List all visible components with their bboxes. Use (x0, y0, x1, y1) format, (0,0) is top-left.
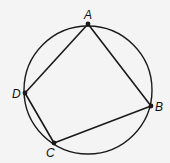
point-d (23, 91, 28, 96)
label-d: D (12, 87, 21, 101)
label-a: A (83, 8, 92, 22)
quadrilateral-abcd (25, 24, 151, 143)
geometry-diagram: ABCD (0, 0, 170, 163)
point-c (52, 141, 57, 146)
label-c: C (46, 146, 55, 160)
vertex-labels: ABCD (12, 8, 163, 160)
circumscribed-circle (24, 26, 152, 154)
point-a (86, 22, 91, 27)
label-b: B (155, 100, 163, 114)
point-b (149, 104, 154, 109)
diagram-canvas: ABCD (0, 0, 170, 163)
